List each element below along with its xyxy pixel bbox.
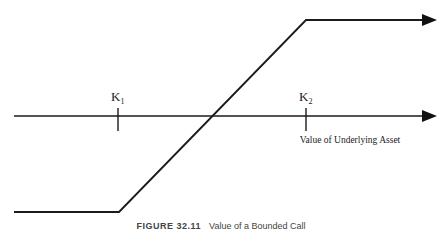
payoff-arrowhead: [422, 14, 437, 26]
diagram-canvas: K1 K2 Value of Underlying Asset: [0, 0, 442, 229]
figure-caption: FIGURE 32.11Value of a Bounded Call: [0, 221, 442, 229]
x-axis-arrowhead: [422, 110, 437, 122]
payoff-diagram: K1 K2 Value of Underlying Asset FIGURE 3…: [0, 0, 442, 229]
strike-k1-label: K1: [111, 89, 124, 106]
strike-k2-label: K2: [299, 89, 312, 106]
figure-number: FIGURE 32.11: [137, 221, 202, 229]
x-axis-label: Value of Underlying Asset: [300, 135, 401, 145]
figure-title: Value of a Bounded Call: [209, 221, 305, 229]
